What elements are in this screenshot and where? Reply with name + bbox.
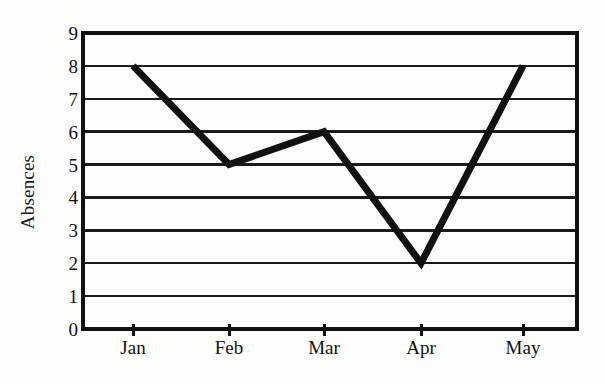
plot-frame bbox=[83, 33, 577, 329]
x-axis-tick-label: Jan bbox=[93, 338, 173, 357]
x-axis-tick-label: Feb bbox=[189, 338, 269, 357]
x-axis-tick-label: Apr bbox=[381, 338, 461, 357]
plot-area bbox=[0, 0, 606, 383]
line-chart: Absences 0123456789 JanFebMarAprMay bbox=[0, 0, 606, 383]
x-axis-tick-label: Mar bbox=[284, 338, 364, 357]
axis-frame bbox=[83, 33, 577, 329]
x-axis-tick-label: May bbox=[483, 338, 563, 357]
